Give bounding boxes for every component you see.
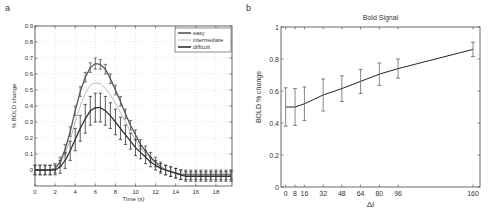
y-tick-label: 0.6: [25, 71, 34, 77]
y-tick-label: 0.8: [25, 39, 34, 45]
x-tick-label: 0: [284, 190, 288, 197]
x-tick-label: 4: [74, 189, 78, 195]
x-tick-label: 16: [192, 189, 199, 195]
y-tick-label: 0.4: [269, 120, 279, 127]
x-axis-label: ΔI: [367, 200, 375, 209]
y-tick-label: 0: [275, 184, 279, 191]
x-tick-label: 18: [213, 189, 220, 195]
chart-a-bold-timecourse: 02468101214161800.10.20.30.40.50.60.70.8…: [11, 23, 233, 202]
x-axis-label: Time (s): [123, 196, 145, 202]
x-tick-label: 48: [338, 190, 346, 197]
y-axis-label: BOLD % change: [255, 71, 263, 123]
x-tick-label: 8: [293, 190, 297, 197]
plot-area: [281, 27, 480, 187]
y-tick-label: 0.3: [25, 119, 34, 125]
x-tick-label: 8: [114, 189, 118, 195]
figure: 02468101214161800.10.20.30.40.50.60.70.8…: [0, 0, 490, 221]
legend-label-easy: easy: [193, 30, 205, 36]
x-tick-label: 2: [53, 189, 57, 195]
chart-title: Bold Signal: [363, 14, 399, 22]
x-tick-label: 10: [132, 189, 139, 195]
legend-label-difficult: difficult: [193, 44, 210, 50]
y-tick-label: 0.9: [25, 23, 34, 29]
x-tick-label: 32: [319, 190, 327, 197]
y-axis-label: % BOLD change: [11, 83, 17, 128]
chart-b-bold-signal: 0816324864809616000.20.40.60.81Bold Sign…: [255, 14, 480, 209]
x-tick-label: 64: [357, 190, 365, 197]
x-tick-label: 80: [375, 190, 383, 197]
y-tick-label: 0.2: [269, 152, 279, 159]
y-tick-label: 0.7: [25, 55, 34, 61]
y-tick-label: 0.8: [269, 56, 279, 63]
legend: easyintermediatedifficult: [175, 28, 231, 52]
y-tick-label: 0.2: [25, 135, 34, 141]
x-tick-label: 12: [152, 189, 159, 195]
y-tick-label: 0.4: [25, 103, 34, 109]
y-tick-label: 0.1: [25, 151, 34, 157]
y-tick-label: 0.5: [25, 87, 34, 93]
x-tick-label: 160: [467, 190, 479, 197]
x-tick-label: 16: [301, 190, 309, 197]
y-tick-label: 0: [30, 167, 34, 173]
x-tick-label: 6: [94, 189, 98, 195]
x-tick-label: 14: [172, 189, 179, 195]
y-tick-label: 1: [275, 24, 279, 31]
x-tick-label: 0: [33, 189, 37, 195]
y-tick-label: 0.6: [269, 88, 279, 95]
x-tick-label: 96: [394, 190, 402, 197]
legend-label-intermediate: intermediate: [193, 37, 223, 43]
